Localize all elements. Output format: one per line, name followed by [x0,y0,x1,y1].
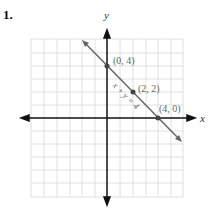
point-label-2-2: (2, 2) [138,83,160,95]
x-axis [21,115,195,121]
x-axis-label: x [199,112,205,124]
point-label-4-0: (4, 0) [159,103,181,115]
coordinate-plane: x y (0, 4) (2, 2) (4, 0) x + y = 4 [0,0,218,213]
point-0-4 [105,64,110,69]
y-axis-label: y [103,9,109,21]
point-4-0 [156,116,161,121]
point-label-0-4: (0, 4) [113,55,135,67]
